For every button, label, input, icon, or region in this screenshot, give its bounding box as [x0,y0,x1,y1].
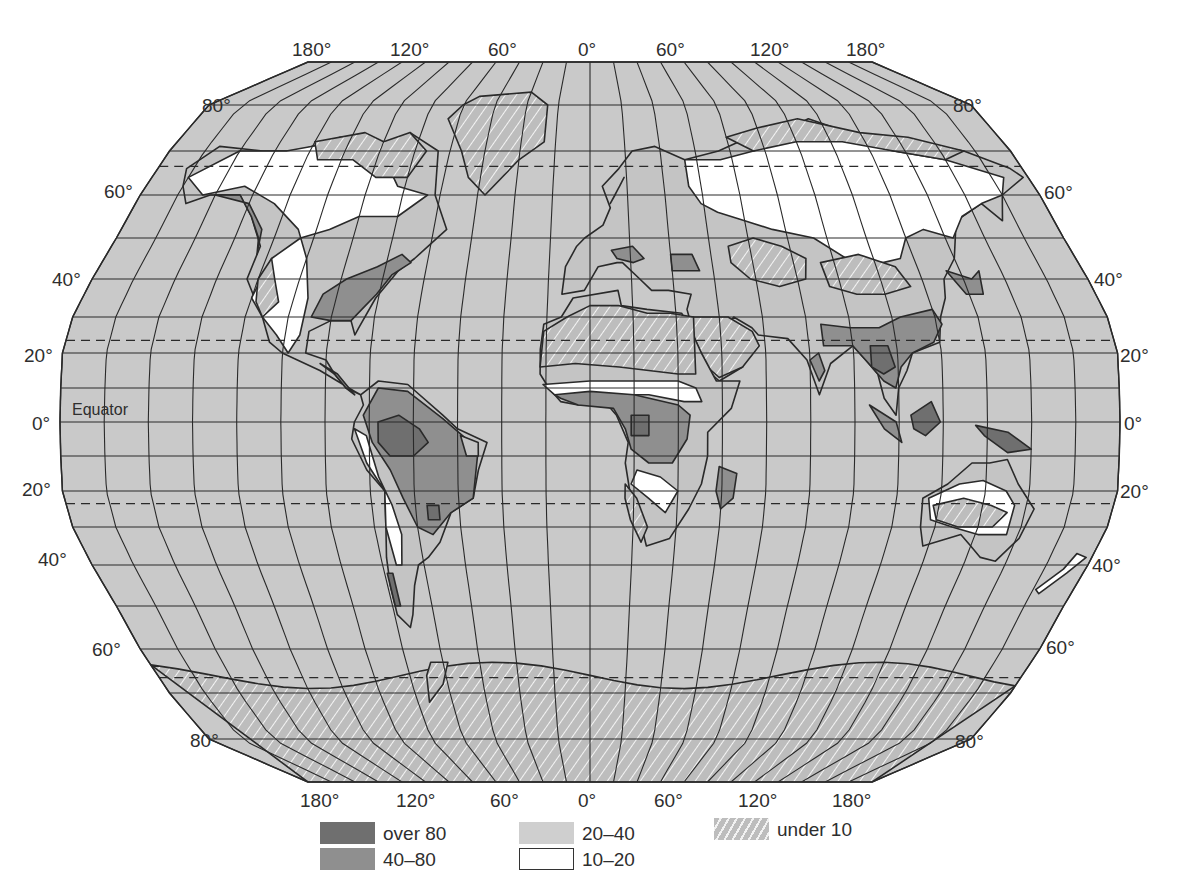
lat-label-left: 80° [190,731,219,750]
lon-label-bottom: 120° [738,791,777,810]
lat-label-left: 20° [24,346,53,365]
lat-label-right: 80° [953,96,982,115]
lon-label-top: 60° [656,40,685,59]
lat-label-left: 20° [22,480,51,499]
lat-label-right: 20° [1120,482,1149,501]
lon-label-bottom: 120° [396,791,435,810]
lat-label-right: 60° [1044,183,1073,202]
lat-label-left: 0° [32,414,50,433]
lon-label-bottom: 180° [300,791,339,810]
lat-label-right: 0° [1124,414,1142,433]
lat-label-right: 20° [1120,346,1149,365]
lon-label-bottom: 180° [832,791,871,810]
lon-label-top: 120° [390,40,429,59]
lat-label-right: 80° [955,732,984,751]
lon-label-top: 60° [488,40,517,59]
lat-label-left: 40° [38,550,67,569]
lon-label-top: 0° [578,40,596,59]
lat-label-left: 60° [104,182,133,201]
lat-label-left: 60° [92,640,121,659]
region-parana-over-80 [427,505,440,519]
lon-label-top: 120° [750,40,789,59]
lon-label-bottom: 60° [490,791,519,810]
lat-label-right: 40° [1092,556,1121,575]
lon-label-top: 180° [846,40,885,59]
lat-label-right: 60° [1046,638,1075,657]
lat-label-left: 80° [202,96,231,115]
lon-label-top: 180° [292,40,331,59]
lon-label-bottom: 0° [578,791,596,810]
equator-label: Equator [72,402,128,418]
world-map [0,0,1183,890]
lat-label-left: 40° [52,270,81,289]
lon-label-bottom: 60° [654,791,683,810]
lat-label-right: 40° [1094,270,1123,289]
